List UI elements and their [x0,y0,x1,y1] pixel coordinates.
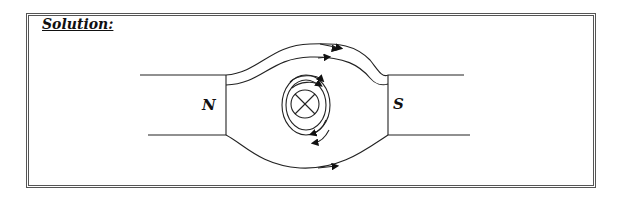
field-line-bottom [226,135,388,168]
field-line-top-inner [226,57,388,85]
south-label: S [393,95,404,113]
north-label: N [201,96,217,114]
conductor-field-circles [282,75,330,143]
conductor-into-page-icon [291,90,319,118]
magnetic-field-diagram: N S [0,0,627,201]
